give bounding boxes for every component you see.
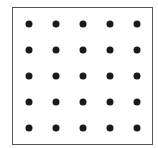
grid-dot: [53, 47, 60, 54]
grid-dot: [107, 125, 114, 132]
grid-dot: [107, 73, 114, 80]
grid-dot: [53, 99, 60, 106]
grid-dot: [80, 21, 87, 28]
grid-dot: [26, 47, 33, 54]
grid-dot: [107, 47, 114, 54]
grid-dot: [53, 21, 60, 28]
grid-dot: [53, 73, 60, 80]
grid-dot: [80, 125, 87, 132]
grid-dot: [26, 125, 33, 132]
grid-dot: [53, 125, 60, 132]
grid-dot: [26, 21, 33, 28]
grid-dot: [134, 125, 141, 132]
grid-dot: [134, 47, 141, 54]
grid-dot: [80, 47, 87, 54]
grid-dot: [80, 73, 87, 80]
grid-dot: [134, 99, 141, 106]
grid-dot: [134, 73, 141, 80]
grid-dot: [26, 99, 33, 106]
grid-dot: [107, 99, 114, 106]
grid-dot: [134, 21, 141, 28]
grid-dot: [80, 99, 87, 106]
grid-dot: [107, 21, 114, 28]
grid-dot: [26, 73, 33, 80]
